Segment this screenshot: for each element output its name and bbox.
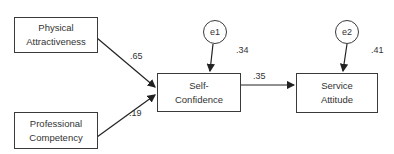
error-term-e1: e1 xyxy=(203,20,227,44)
arrow-e2-to-service-attitude xyxy=(343,44,347,71)
arrow-professional-to-self-confidence xyxy=(97,95,155,137)
r-squared-self-confidence: .34 xyxy=(236,45,249,55)
node-professional-competency: Professional Competency xyxy=(14,112,98,149)
node-label-line1: Professional xyxy=(29,117,82,131)
coef-professional-to-self-confidence: .19 xyxy=(129,108,142,118)
arrow-physical-to-self-confidence xyxy=(97,38,155,87)
node-label-line2: Attitude xyxy=(321,93,353,107)
node-label-line2: Competency xyxy=(29,131,82,145)
coef-physical-to-self-confidence: .65 xyxy=(130,51,143,61)
node-self-confidence: Self- Confidence xyxy=(157,73,241,112)
node-physical-attractiveness: Physical Attractiveness xyxy=(14,17,98,53)
node-label-line1: Physical xyxy=(26,21,86,35)
node-service-attitude: Service Attitude xyxy=(296,73,378,113)
r-squared-service-attitude: .41 xyxy=(371,45,384,55)
error-term-e2: e2 xyxy=(335,20,359,44)
error-label: e2 xyxy=(342,27,352,37)
node-label-line2: Confidence xyxy=(175,93,223,107)
node-label-line2: Attractiveness xyxy=(26,35,86,49)
arrow-e1-to-self-confidence xyxy=(210,44,213,71)
node-label-line1: Service xyxy=(321,79,353,93)
node-label-line1: Self- xyxy=(175,79,223,93)
error-label: e1 xyxy=(210,27,220,37)
coef-self-confidence-to-service-attitude: .35 xyxy=(253,71,266,81)
